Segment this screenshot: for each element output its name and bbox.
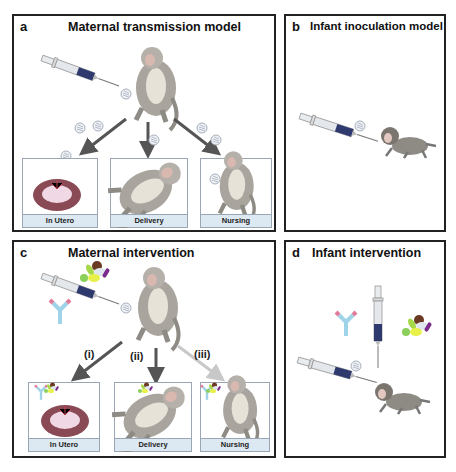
route-label-ii: (ii) (130, 350, 143, 362)
panel-a-maternal-transmission: a Maternal transmission model In Utero D… (12, 14, 276, 232)
placenta-icon (33, 179, 81, 211)
virus-particle-icon (197, 123, 207, 133)
virus-particle-icon (149, 135, 159, 145)
in-utero-box: In Utero (22, 158, 98, 228)
drug-pills-icon (402, 315, 432, 336)
antibody-icon (336, 312, 356, 336)
panel-d-infant-intervention: d Infant intervention (284, 240, 446, 458)
monkey-adult-icon (223, 375, 257, 446)
virus-particle-icon (93, 121, 103, 131)
delivery-box: Delivery (110, 158, 188, 228)
antibody-icon (50, 300, 70, 324)
panel-b-infant-inoculation: b Infant inoculation model (284, 14, 446, 232)
virus-particle-icon (75, 123, 85, 133)
virus-particle-icon (210, 174, 220, 184)
drug-pills-icon (80, 261, 110, 282)
box-caption: Nursing (201, 214, 271, 227)
route-label-iii: (iii) (194, 348, 211, 360)
nursing-box: Nursing (200, 158, 272, 228)
panel-c-maternal-intervention: c Maternal intervention (i) (ii) (iii) I… (12, 240, 276, 458)
in-utero-box: In Utero (28, 382, 100, 452)
placenta-icon (41, 405, 89, 437)
virus-particle-icon (211, 135, 221, 145)
monkey-adult-icon (220, 151, 254, 222)
syringe-icon (373, 286, 383, 368)
drug-pills-icon (138, 383, 153, 394)
box-caption: Delivery (115, 438, 191, 451)
box-caption: In Utero (29, 438, 99, 451)
monkey-infant-icon (375, 383, 430, 414)
virus-particle-icon (121, 303, 131, 313)
virus-particle-icon (351, 361, 361, 371)
box-caption: Delivery (111, 214, 187, 227)
monkey-adult-icon (136, 47, 177, 130)
panel-d-illustration (286, 242, 448, 460)
syringe-icon (40, 53, 120, 90)
box-caption: In Utero (23, 214, 97, 227)
syringe-icon (297, 355, 379, 387)
panel-b-illustration (286, 16, 448, 234)
syringe-icon (298, 111, 379, 146)
drug-pills-icon (206, 383, 221, 394)
virus-particle-icon (355, 121, 365, 131)
monkey-adult-icon (138, 267, 179, 350)
nursing-box: Nursing (200, 382, 270, 452)
route-label-i: (i) (84, 348, 94, 360)
box-caption: Nursing (201, 438, 269, 451)
monkey-infant-icon (381, 127, 436, 158)
delivery-box: Delivery (114, 382, 192, 452)
virus-particle-icon (121, 89, 131, 99)
